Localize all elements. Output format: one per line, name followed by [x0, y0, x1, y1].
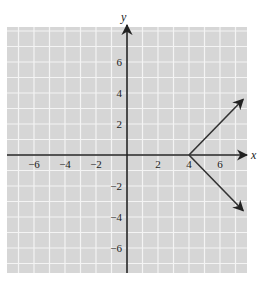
- x-tick-label: 6: [217, 158, 223, 170]
- y-tick-label: 2: [117, 118, 123, 130]
- x-axis-label: x: [250, 148, 257, 162]
- y-tick-label: −2: [110, 180, 122, 192]
- x-tick-label: 4: [186, 158, 192, 170]
- x-tick-label: −6: [28, 158, 40, 170]
- y-tick-label: 6: [117, 56, 123, 68]
- coordinate-plane: −6−4−2246642−2−4−6 x y: [0, 0, 259, 283]
- x-tick-label: −2: [90, 158, 102, 170]
- y-tick-label: 4: [117, 87, 123, 99]
- y-tick-label: −6: [110, 242, 122, 254]
- y-tick-label: −4: [110, 211, 122, 223]
- x-tick-label: 2: [155, 158, 161, 170]
- x-tick-label: −4: [59, 158, 71, 170]
- y-axis-label: y: [120, 10, 127, 24]
